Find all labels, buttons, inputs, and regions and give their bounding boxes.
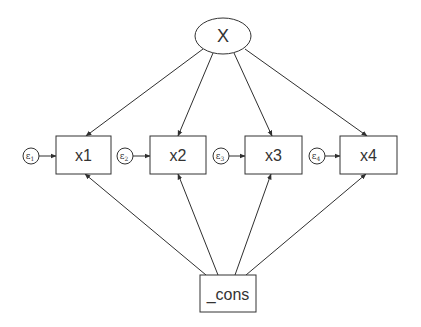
observed-label: x2 — [170, 147, 187, 164]
observed-node-x4[interactable]: x4 — [340, 136, 397, 174]
path-arrow-cons-to-x2 — [178, 174, 218, 275]
error-node-e4[interactable]: ε4 — [309, 148, 325, 164]
observed-node-x2[interactable]: x2 — [150, 136, 206, 174]
observed-label: x1 — [75, 147, 92, 164]
sem-path-diagram: X x1x2x3x4 ε1ε2ε3ε4 _cons — [0, 0, 421, 327]
error-node-e3[interactable]: ε3 — [213, 148, 229, 164]
constant-node[interactable]: _cons — [200, 275, 256, 312]
constant-label: _cons — [206, 286, 250, 304]
observed-label: x3 — [265, 147, 282, 164]
path-arrow-X-to-x2 — [178, 53, 213, 136]
latent-variable-X[interactable]: X — [195, 18, 251, 54]
path-arrow-cons-to-x4 — [246, 174, 366, 275]
latent-label: X — [217, 26, 229, 46]
path-arrow-cons-to-x3 — [235, 174, 271, 275]
path-arrow-X-to-x4 — [245, 49, 367, 136]
observed-node-x3[interactable]: x3 — [245, 136, 302, 174]
error-node-e1[interactable]: ε1 — [23, 148, 39, 164]
observed-label: x4 — [360, 147, 377, 164]
error-node-e2[interactable]: ε2 — [117, 148, 133, 164]
observed-node-x1[interactable]: x1 — [56, 136, 111, 174]
path-arrow-X-to-x3 — [234, 53, 272, 136]
path-arrow-X-to-x1 — [86, 49, 203, 136]
path-arrow-cons-to-x1 — [85, 174, 206, 275]
